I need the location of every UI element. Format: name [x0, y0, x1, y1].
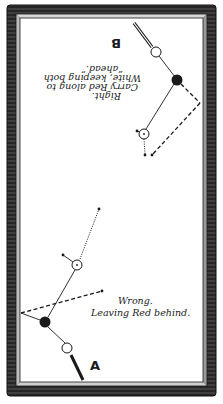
table-frame [7, 5, 216, 396]
white-ball-a [62, 343, 72, 353]
billiards-diagram: B Right. Carry Red along to White, keepi… [0, 0, 223, 404]
white-ball-b [151, 47, 161, 57]
label-a: A [90, 358, 100, 373]
caption-a-line1: Wrong. [118, 295, 153, 306]
caption-a-line2: Leaving Red behind. [90, 307, 190, 318]
label-b: B [111, 36, 121, 51]
table-svg: B Right. Carry Red along to White, keepi… [0, 0, 223, 404]
red-ball-a [40, 317, 51, 328]
caption-b-line4: “ahead.” [81, 64, 123, 75]
red-ball-b [172, 75, 183, 86]
